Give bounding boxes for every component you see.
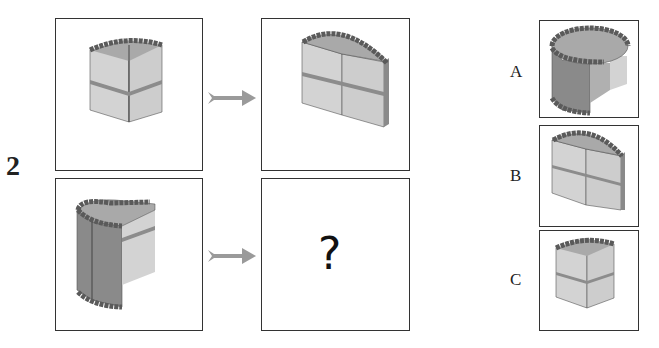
option-a-figure bbox=[552, 28, 628, 113]
option-b-figure bbox=[552, 133, 625, 210]
cake-half-figure bbox=[302, 34, 389, 127]
figures-layer bbox=[0, 0, 659, 348]
cake-slice-quarter-figure bbox=[90, 40, 162, 122]
arrow-right-icon bbox=[208, 90, 256, 264]
option-c-figure bbox=[556, 238, 614, 308]
cake-three-quarter-figure bbox=[77, 200, 155, 307]
